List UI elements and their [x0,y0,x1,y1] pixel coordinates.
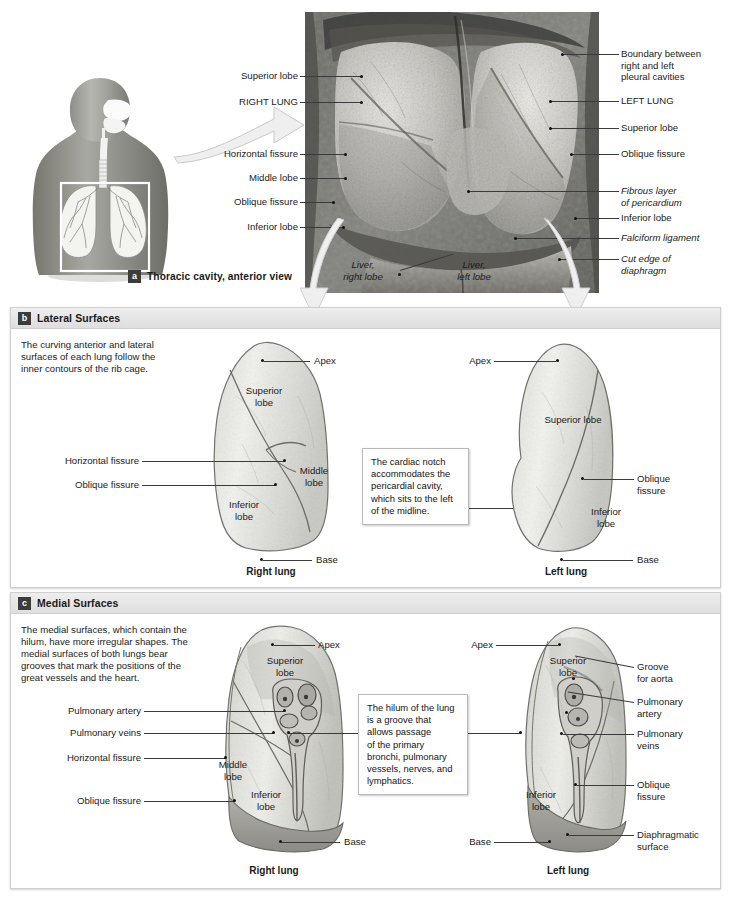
panel-a-caption: a Thoracic cavity, anterior view [128,270,292,283]
dot-b-ofR [274,483,277,486]
leader-a-r5 [469,191,619,192]
dot-a-r2 [549,100,552,103]
leader-c-pvL [563,734,634,735]
leader-a-l5 [300,202,334,203]
panel-b-header: b Lateral Surfaces [11,308,720,329]
dot-b-apexL [556,359,559,362]
panel-badge-b: b [18,312,31,325]
photo-label-oblique-fissure-right: Oblique fissure [170,196,298,208]
c-right-pulmonary-artery: Pulmonary artery [29,705,141,717]
photo-label-superior-lobe-left: Superior lobe [621,122,729,134]
leader-c-callout-left [289,733,358,734]
dot-c-aorta [572,677,575,680]
right-lung-lateral-illustration [206,336,341,561]
leader-b-ofL [584,479,634,480]
leader-b-baseR [263,560,312,561]
b-left-oblique-fissure: Oblique fissure [637,473,707,496]
c-left-inferior-lobe: Inferior lobe [516,789,566,812]
photo-label-horizontal-fissure: Horizontal fissure [170,148,298,160]
dot-c-callout-left [287,731,290,734]
b-right-middle-lobe: Middle lobe [288,465,340,488]
leader-b-baseL [563,560,633,561]
c-left-base: Base [453,836,491,848]
leader-c-ofR [144,801,234,802]
c-right-apex: Apex [318,639,340,651]
photo-label-fibrous-pericardium: Fibrous layer of pericardium [621,185,729,208]
c-right-middle-lobe: Middle lobe [208,759,258,782]
panel-b-title: Lateral Surfaces [37,312,120,324]
leader-c-apexL [496,645,558,646]
dot-a-l3 [344,153,347,156]
b-right-superior-lobe: Superior lobe [231,385,297,408]
panel-b-description: The curving anterior and lateral surface… [21,339,211,375]
panel-medial-surfaces: c Medial Surfaces The medial surfaces, w… [10,592,721,889]
dot-b-baseL [560,558,563,561]
dot-a-l4 [344,177,347,180]
b-right-apex: Apex [314,355,336,367]
panel-c-title: Medial Surfaces [37,597,118,609]
leader-a-l3 [300,154,346,155]
c-right-inferior-lobe: Inferior lobe [241,789,291,812]
dot-a-l1 [360,75,363,78]
leader-c-diaL [569,835,634,836]
leader-b-apexL [494,361,556,362]
leader-c-baseL [494,842,548,843]
dot-a-r1 [561,53,564,56]
dot-c-baseR [279,840,282,843]
c-right-oblique-fissure: Oblique fissure [29,795,141,807]
b-left-inferior-lobe: Inferior lobe [581,506,631,529]
dot-falciform [398,273,401,276]
dot-a-r7 [514,237,517,240]
photo-label-right-lung: RIGHT LUNG [185,96,298,108]
leader-b-ofR [142,485,275,486]
c-left-diaphragmatic-surface: Diaphragmatic surface [637,829,725,852]
dot-a-r4 [570,153,573,156]
c-right-pulmonary-veins: Pulmonary veins [29,727,141,739]
c-left-oblique-fissure: Oblique fissure [637,779,721,802]
b-left-base: Base [637,554,659,566]
dot-c-apexR [271,643,274,646]
cardiac-notch-callout: The cardiac notch accommodates the peric… [362,448,469,525]
dot-b-hfR [283,459,286,462]
panel-badge-c: c [18,597,31,610]
dot-c-diaL [566,833,569,836]
leader-c-apexR [274,645,315,646]
dot-c-hfR [224,756,227,759]
c-right-superior-lobe: Superior lobe [257,655,313,678]
c-right-lung-caption: Right lung [229,865,319,877]
dot-c-ofL [574,783,577,786]
dot-c-ofR [233,799,236,802]
panel-a-title: Thoracic cavity, anterior view [147,271,292,282]
figure-page: Liver, right lobe Liver, left lobe Super… [0,0,731,901]
leader-c-baseR [282,842,340,843]
leader-a-r2 [551,101,619,102]
b-right-inferior-lobe: Inferior lobe [218,499,270,522]
photo-label-middle-lobe: Middle lobe [170,172,298,184]
photo-label-inferior-lobe-right: Inferior lobe [170,221,298,233]
leader-c-ofL [577,785,634,786]
dot-a-r5 [467,190,470,193]
panel-badge-a: a [128,270,141,283]
dot-b-ofL [581,477,584,480]
leader-c-hfR [144,758,225,759]
human-torso-illustration [28,78,178,283]
photo-label-cut-edge-diaphragm: Cut edge of diaphragm [621,253,729,276]
leader-a-r3 [551,128,619,129]
leader-a-r1 [563,54,619,55]
photo-label-liver-left-lobe: Liver, left lobe [444,259,504,282]
dot-c-paL [565,711,568,714]
leader-b-hfR [142,461,284,462]
dot-c-apexL [558,643,561,646]
panel-lateral-surfaces: b Lateral Surfaces The curving anterior … [10,307,721,588]
b-right-base: Base [316,554,338,566]
leader-b-apexR [264,361,310,362]
dot-b-apexR [261,359,264,362]
c-right-horizontal-fissure: Horizontal fissure [29,752,141,764]
b-left-superior-lobe: Superior lobe [531,414,615,426]
b-right-oblique-fissure: Oblique fissure [29,479,139,491]
hilum-callout: The hilum of the lung is a groove that a… [358,694,468,795]
photo-label-oblique-fissure-left: Oblique fissure [621,148,729,160]
panel-c-header: c Medial Surfaces [11,593,720,614]
c-left-pulmonary-veins: Pulmonary veins [637,728,721,751]
b-right-lung-caption: Right lung [226,566,316,578]
